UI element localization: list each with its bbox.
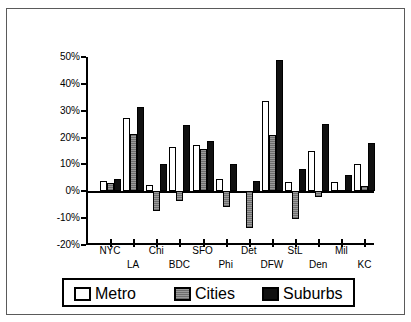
y-axis-tick xyxy=(81,190,86,192)
legend-label-cities: Cities xyxy=(195,285,235,302)
x-axis-label-mil: Mil xyxy=(335,245,348,256)
x-axis-label-dfw: DFW xyxy=(261,259,284,270)
legend-swatch-metro-icon xyxy=(74,287,91,301)
legend-swatch-suburbs-icon xyxy=(262,287,279,301)
legend-item-cities[interactable]: Cities xyxy=(174,284,235,303)
bar-den-suburbs xyxy=(322,124,329,191)
legend-swatch-cities-icon xyxy=(174,287,191,301)
y-axis-tick xyxy=(81,163,86,165)
bar-dfw-cities xyxy=(269,135,276,192)
bar-mil-suburbs xyxy=(345,175,352,191)
zero-baseline-axis xyxy=(86,191,374,193)
bar-dfw-metro xyxy=(262,101,269,191)
y-axis-tick xyxy=(81,56,86,58)
x-axis-label-la: LA xyxy=(127,259,139,270)
bar-stl-cities xyxy=(292,191,299,219)
chart-legend: MetroCitiesSuburbs xyxy=(62,278,355,307)
bar-bdc-metro xyxy=(169,147,176,191)
y-axis-tick-label: -20% xyxy=(57,240,80,250)
x-axis-label-chi: Chi xyxy=(149,245,164,256)
bar-chi-cities xyxy=(153,191,160,211)
y-axis-tick-label: 20% xyxy=(60,133,80,143)
y-axis-tick-label: -10% xyxy=(57,213,80,223)
y-axis-labels: 50%40%30%20%10%0%-10%-20% xyxy=(40,57,80,245)
bar-dfw-suburbs xyxy=(276,60,283,191)
plot-area xyxy=(86,57,374,245)
x-axis-label-bdc: BDC xyxy=(169,259,190,270)
x-axis-label-sfo: SFO xyxy=(192,245,213,256)
bar-stl-suburbs xyxy=(299,169,306,191)
y-axis-tick-label: 50% xyxy=(60,52,80,62)
bar-kc-cities xyxy=(361,186,368,191)
bar-phi-metro xyxy=(216,179,223,192)
x-axis-label-phi: Phi xyxy=(218,259,232,270)
y-axis-tick xyxy=(81,217,86,219)
y-axis-tick-label: 0% xyxy=(66,186,80,196)
y-axis-tick xyxy=(81,83,86,85)
bar-mil-metro xyxy=(331,182,338,191)
legend-label-metro: Metro xyxy=(95,285,136,302)
legend-label-suburbs: Suburbs xyxy=(283,285,343,302)
bar-kc-suburbs xyxy=(368,143,375,191)
bar-den-metro xyxy=(308,151,315,191)
bar-bdc-cities xyxy=(176,191,183,201)
bar-la-metro xyxy=(123,118,130,191)
x-axis-label-den: Den xyxy=(309,259,327,270)
bar-nyc-suburbs xyxy=(114,179,121,191)
bar-nyc-metro xyxy=(100,181,107,191)
x-axis-label-det: Det xyxy=(241,245,257,256)
x-axis-label-stl: StL xyxy=(288,245,303,256)
y-axis-tick-label: 30% xyxy=(60,106,80,116)
bar-det-cities xyxy=(246,191,253,227)
x-axis-label-kc: KC xyxy=(358,259,372,270)
bar-chi-suburbs xyxy=(160,164,167,191)
bar-det-suburbs xyxy=(253,181,260,191)
bar-sfo-cities xyxy=(200,149,207,191)
bar-mil-cities xyxy=(338,190,345,192)
y-axis-line xyxy=(86,57,88,245)
bar-la-cities xyxy=(130,134,137,191)
x-axis-label-nyc: NYC xyxy=(99,245,120,256)
bar-stl-metro xyxy=(285,182,292,192)
legend-item-metro[interactable]: Metro xyxy=(74,284,136,303)
bar-chart-figure: 50%40%30%20%10%0%-10%-20% NYCLAChiBDCSFO… xyxy=(0,0,411,322)
bar-chi-metro xyxy=(146,185,153,191)
bar-sfo-metro xyxy=(193,145,200,191)
bar-nyc-cities xyxy=(107,183,114,191)
bar-la-suburbs xyxy=(137,107,144,191)
bar-den-cities xyxy=(315,191,322,197)
x-axis-labels: NYCLAChiBDCSFOPhiDetDFWStLDenMilKC xyxy=(86,245,374,279)
legend-item-suburbs[interactable]: Suburbs xyxy=(262,284,343,303)
y-axis-tick-label: 40% xyxy=(60,79,80,89)
bar-phi-suburbs xyxy=(230,164,237,191)
bar-phi-cities xyxy=(223,191,230,207)
y-axis-tick xyxy=(81,137,86,139)
bar-kc-metro xyxy=(354,164,361,192)
y-axis-tick xyxy=(81,110,86,112)
bar-bdc-suburbs xyxy=(183,125,190,191)
bar-sfo-suburbs xyxy=(207,141,214,191)
y-axis-tick-label: 10% xyxy=(60,159,80,169)
